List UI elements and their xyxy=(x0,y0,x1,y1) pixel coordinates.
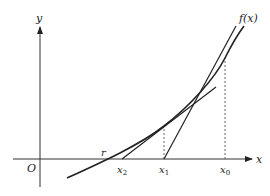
root-label: r xyxy=(101,147,107,158)
curve-label: f(x) xyxy=(238,12,258,25)
origin-label: O xyxy=(27,162,36,175)
x1-label: x1 xyxy=(159,164,169,177)
x0-label: x0 xyxy=(220,164,230,177)
x-axis-label: x xyxy=(256,153,263,166)
x2-label: x2 xyxy=(117,164,127,177)
function-curve xyxy=(67,26,244,178)
newton-method-diagram: y x O f(x) r x2 x1 x0 xyxy=(0,0,270,196)
tangent-line-x1 xyxy=(122,87,216,159)
y-axis-label: y xyxy=(35,12,43,25)
tangent-line-x0 xyxy=(164,26,236,159)
